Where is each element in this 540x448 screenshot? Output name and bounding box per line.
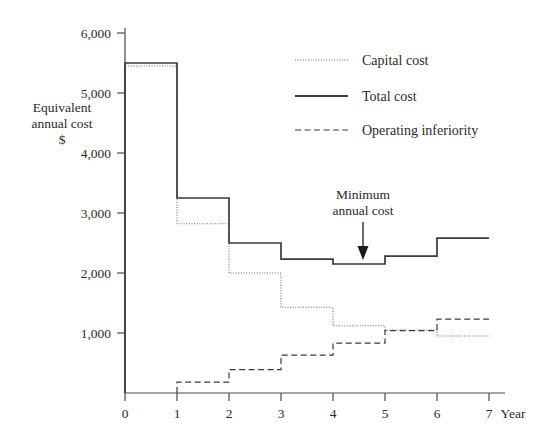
equivalent-annual-cost-chart: 6,000 5,000 4,000 3,000 2,000 1,000 0 1 … [0, 0, 540, 448]
legend-label-capital-cost: Capital cost [362, 53, 429, 68]
x-tick-label-0: 0 [122, 406, 129, 421]
x-tick-label-4: 4 [330, 406, 337, 421]
annotation-text-line2: annual cost [332, 203, 393, 218]
y-tick-label-5000: 5,000 [81, 86, 112, 101]
x-tick-label-6: 6 [434, 406, 441, 421]
series-total-cost [125, 63, 489, 393]
y-axis-title-line3: $ [59, 132, 66, 147]
x-tick-label-2: 2 [226, 406, 233, 421]
y-axis-ticks [117, 33, 125, 333]
x-axis-title: Year [501, 406, 526, 421]
annotation-minimum-annual-cost: Minimum annual cost [332, 187, 393, 260]
x-tick-label-1: 1 [174, 406, 181, 421]
series-capital-cost [125, 66, 489, 393]
x-tick-label-7: 7 [486, 406, 493, 421]
annotation-arrow-head [358, 246, 369, 260]
annotation-text-line1: Minimum [336, 187, 391, 202]
x-tick-label-5: 5 [382, 406, 389, 421]
chart-legend: Capital cost Total cost Operating inferi… [295, 53, 478, 138]
chart-container: 6,000 5,000 4,000 3,000 2,000 1,000 0 1 … [0, 0, 540, 448]
y-tick-label-2000: 2,000 [81, 266, 112, 281]
y-tick-label-3000: 3,000 [81, 206, 112, 221]
y-tick-label-1000: 1,000 [81, 326, 112, 341]
y-axis-title-line1: Equivalent [33, 100, 92, 115]
y-tick-label-6000: 6,000 [81, 26, 112, 41]
x-axis-ticks [125, 393, 489, 401]
series-operating-inferiority [177, 319, 489, 393]
y-axis-title-line2: annual cost [31, 116, 92, 131]
x-tick-label-3: 3 [278, 406, 285, 421]
legend-label-total-cost: Total cost [362, 89, 417, 104]
y-tick-label-4000: 4,000 [81, 146, 112, 161]
legend-label-operating-inferiority: Operating inferiority [362, 123, 478, 138]
